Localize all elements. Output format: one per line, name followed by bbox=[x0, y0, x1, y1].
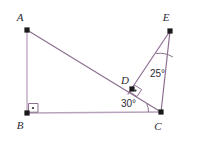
vertex-label-d: D bbox=[120, 74, 129, 86]
angle-arc-30-at-c bbox=[147, 104, 149, 112]
angle-label-30-at-c: 30° bbox=[121, 98, 136, 109]
right-angle-marker-b bbox=[29, 104, 39, 113]
vertex-dot-d bbox=[129, 86, 134, 91]
angle-arcs-group bbox=[147, 53, 173, 112]
vertex-label-c: C bbox=[154, 120, 162, 132]
angle-label-25-at-e: 25° bbox=[150, 68, 165, 79]
vertex-label-a: A bbox=[16, 11, 24, 23]
geometry-canvas: A B C D E 30° 25° bbox=[0, 0, 211, 153]
vertex-dot-e bbox=[167, 28, 172, 33]
segment-ac bbox=[27, 30, 161, 112]
segment-bc bbox=[27, 112, 161, 113]
angle-arc-25-at-e bbox=[156, 53, 173, 57]
vertex-dot-c bbox=[158, 109, 163, 114]
segments-group bbox=[27, 30, 170, 113]
geometry-figure: A B C D E 30° 25° bbox=[0, 0, 211, 153]
vertex-label-e: E bbox=[162, 11, 170, 23]
vertex-labels-group: A B C D E bbox=[16, 11, 170, 132]
vertex-dot-b bbox=[24, 110, 29, 115]
vertex-dot-a bbox=[24, 27, 29, 32]
vertex-label-b: B bbox=[17, 119, 24, 131]
